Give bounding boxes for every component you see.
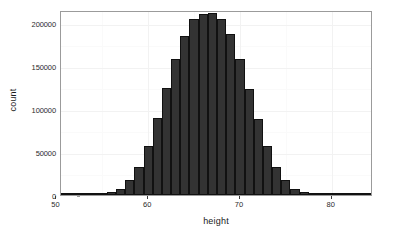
histogram-bar bbox=[189, 19, 198, 195]
histogram-bar bbox=[364, 193, 372, 195]
y-axis-tick-label: 50000 bbox=[36, 148, 56, 157]
histogram-bar bbox=[290, 189, 299, 195]
x-axis-title: height bbox=[60, 216, 372, 226]
y-axis-title-label: count bbox=[8, 88, 18, 111]
histogram-bar bbox=[107, 192, 116, 195]
histogram-bar bbox=[134, 167, 143, 195]
plot-panel bbox=[60, 11, 372, 196]
y-axis-tick-label: 200000 bbox=[32, 19, 56, 28]
x-axis-tick-mark bbox=[147, 196, 148, 199]
x-axis-tick-mark bbox=[331, 196, 332, 199]
x-axis-tick-label: 70 bbox=[235, 200, 243, 209]
histogram-bar bbox=[327, 193, 336, 195]
histogram-bar bbox=[226, 34, 235, 195]
histogram-bar bbox=[336, 193, 345, 195]
histogram-bar bbox=[125, 180, 134, 195]
histogram-bar bbox=[61, 193, 70, 195]
y-axis-tick-label: 100000 bbox=[32, 105, 56, 114]
x-axis-tick-labels: 50607080 bbox=[60, 200, 372, 212]
histogram-bar bbox=[355, 193, 364, 195]
x-axis-tick-label: 50 bbox=[51, 200, 59, 209]
histogram-bar bbox=[153, 118, 162, 195]
histogram-bar bbox=[199, 14, 208, 195]
histogram-bar bbox=[235, 59, 244, 195]
x-axis-tick-mark bbox=[239, 196, 240, 199]
histogram-bar bbox=[345, 193, 354, 195]
histogram-bar bbox=[300, 192, 309, 195]
histogram-bar bbox=[217, 19, 226, 195]
histogram-bar bbox=[144, 146, 153, 195]
x-axis-tick-label: 80 bbox=[327, 200, 335, 209]
histogram-bar bbox=[309, 193, 318, 195]
x-axis-tick-label: 60 bbox=[143, 200, 151, 209]
histogram-bar bbox=[272, 167, 281, 195]
histogram-chart: count 050000100000150000200000 50607080 … bbox=[0, 0, 395, 239]
histogram-bar bbox=[208, 13, 217, 195]
histogram-bar bbox=[263, 146, 272, 195]
histogram-bar bbox=[79, 193, 88, 195]
histogram-bar bbox=[70, 193, 79, 195]
histogram-bar bbox=[116, 189, 125, 195]
histogram-bar bbox=[245, 89, 254, 195]
histogram-bar bbox=[162, 88, 171, 195]
histogram-bar bbox=[89, 193, 98, 195]
histogram-bar bbox=[171, 59, 180, 195]
y-axis-tick-label: 150000 bbox=[32, 62, 56, 71]
histogram-bar bbox=[281, 180, 290, 195]
histogram-bar bbox=[180, 36, 189, 195]
y-axis-tick-labels: 050000100000150000200000 bbox=[20, 11, 56, 192]
histogram-bar bbox=[254, 119, 263, 195]
histogram-bar bbox=[318, 193, 327, 195]
histogram-bar bbox=[98, 193, 107, 195]
x-axis-tick-mark bbox=[55, 196, 56, 199]
x-axis-title-label: height bbox=[203, 216, 229, 226]
bars-layer bbox=[61, 12, 371, 195]
